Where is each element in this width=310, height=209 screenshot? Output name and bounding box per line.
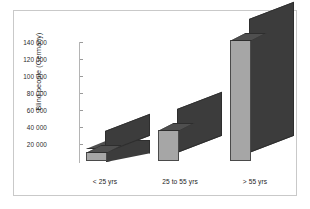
y-tick-mark-20000 xyxy=(80,144,83,145)
y-tick-label-100000: 100 000 xyxy=(1,73,47,80)
x-axis-label-gt-55-yrs: > 55 yrs xyxy=(220,178,290,185)
y-tick-label-120000: 120 000 xyxy=(1,56,47,63)
y-tick-mark-40000 xyxy=(80,127,83,128)
x-axis-label-25-to-55-yrs: 25 to 55 yrs xyxy=(140,178,220,185)
y-tick-mark-140000 xyxy=(80,42,83,43)
bar-front-face xyxy=(86,152,107,161)
x-axis-baseline xyxy=(79,162,80,163)
bar-depth-slab xyxy=(249,2,294,153)
y-tick-label-140000: 140 000 xyxy=(1,39,47,46)
bar-gt-55-yrs xyxy=(230,19,294,162)
y-tick-label-40000: 40 000 xyxy=(1,124,47,131)
y-tick-mark-100000 xyxy=(80,76,83,77)
bar-front-face xyxy=(158,130,179,161)
y-tick-mark-60000 xyxy=(80,110,83,111)
x-axis-label-lt-25-yrs: < 25 yrs xyxy=(70,178,140,185)
bar-front-face xyxy=(230,40,251,161)
chart-figure: Blind people (Germany) 140 000 120 000 1… xyxy=(0,0,310,209)
y-tick-label-80000: 80 000 xyxy=(1,90,47,97)
bar-lt-25-yrs xyxy=(86,131,150,162)
y-tick-label-20000: 20 000 xyxy=(1,141,47,148)
bar-25-to-55-yrs xyxy=(158,109,222,162)
y-tick-mark-80000 xyxy=(80,93,83,94)
y-tick-mark-120000 xyxy=(80,59,83,60)
y-tick-label-60000: 60 000 xyxy=(1,107,47,114)
chart-frame: Blind people (Germany) 140 000 120 000 1… xyxy=(13,10,297,196)
